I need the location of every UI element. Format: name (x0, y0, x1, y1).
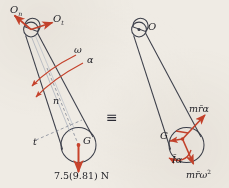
point-O-right (138, 28, 141, 31)
vector-mr-omega2 (183, 139, 194, 164)
figure-canvas: On Ot ω α n t G 7.5(9.81) N ≡ O G mr̄α I… (0, 0, 229, 188)
label-axis-n: n (53, 96, 59, 106)
label-alpha: α (87, 55, 93, 65)
label-mr-alpha: mr̄α (189, 104, 209, 114)
diagram-svg (0, 0, 229, 188)
label-mr-omega2: mr̄ω2 (186, 170, 211, 180)
fbd-weight (77, 143, 81, 172)
fbd-axes (36, 68, 82, 145)
vector-stub-top (176, 131, 188, 133)
fbd-rotation-arcs (32, 55, 83, 97)
label-omega: ω (74, 45, 82, 55)
arc-alpha (36, 63, 83, 97)
label-weight: 7.5(9.81) N (54, 171, 109, 181)
label-O-right: O (148, 22, 156, 32)
label-G-left: G (83, 136, 91, 146)
label-Ot: Ot (53, 14, 64, 26)
label-On: On (10, 5, 22, 17)
label-inertia-couple: Īα (172, 155, 182, 165)
equivalence-symbol: ≡ (106, 109, 118, 125)
label-axis-t: t (33, 137, 37, 147)
vector-stub-left (170, 139, 183, 141)
label-G-right: G (160, 131, 168, 141)
vector-Ot (31, 23, 53, 30)
